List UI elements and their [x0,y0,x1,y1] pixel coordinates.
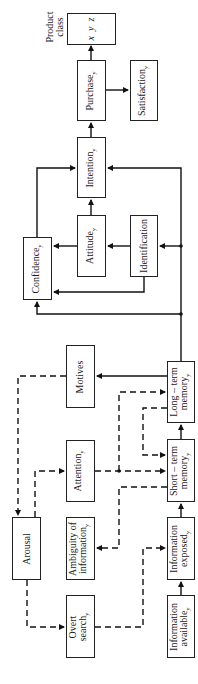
arousal-label: Arousal [21,533,32,565]
edge-arousal-to-attention [35,471,64,517]
exposed-label-line2: exposed [178,534,189,567]
available-sub: y [185,607,191,610]
attitude-label: Attitude [84,231,95,264]
stm-sub: y [185,452,191,455]
edge-arousal-to-overt-search [27,580,64,627]
attitude-sub: y [91,228,97,231]
purchase-label: Purchase [84,74,95,110]
ambiguity-sub: y [85,523,91,526]
satisfaction-box: Satisfactiony [130,60,158,121]
motives-box: Motives [66,345,95,408]
ambiguity-box: Ambiguity of informationy [66,517,95,580]
information-available-box: Information availabley [167,595,195,658]
long-term-memory-box: Long – term memoryy [167,361,195,423]
short-term-memory-box: Short – term memoryy [167,439,195,502]
intention-sub: y [91,148,97,151]
attention-label: Attention [73,454,84,492]
intention-box: Intentiony [77,137,106,198]
identification-box: Identification [130,215,158,277]
satisfaction-label: Satisfaction [136,68,147,115]
arousal-box: Arousal [12,517,41,580]
edge-identification-to-confidence [54,277,144,292]
product-class-label: Product class [45,10,65,44]
ambiguity-label-line2: information [78,526,89,573]
overt-search-box: Overt searchy [66,595,95,658]
ltm-sub: y [185,374,191,377]
product-class-box: x y z [67,13,116,45]
edge-confidence-to-intention [37,168,75,237]
edge-motives-to-arousal [18,376,66,515]
stm-label-line2: memory [178,455,189,488]
product-z: z [86,18,97,22]
edge-ltm-to-confidence [37,302,181,314]
edge-stm-to-ambiguity [97,487,167,548]
identification-label: Identification [138,219,149,273]
product-y: y [86,27,97,31]
edge-attention-to-ltm [119,392,165,471]
ltm-label-line2: memory [178,377,189,410]
product-x: x [86,36,97,40]
purchase-sub: y [91,71,97,74]
purchase-box: Purchasey [77,60,106,121]
overt-label-line2: search [78,615,89,641]
available-label-line2: available [178,610,189,646]
edge-ltm-to-stm [143,408,167,455]
edge-overt-search-to-exposed [95,548,165,627]
confidence-box: Confidencey [23,237,52,300]
product-class-label-line2: class [55,10,65,44]
information-exposed-box: Information exposedy [167,517,195,580]
attitude-box: Attitudey [77,215,106,277]
confidence-sub: y [37,244,43,247]
attention-sub: y [80,451,86,454]
confidence-label: Confidence [30,247,41,293]
motives-label: Motives [75,360,86,393]
intention-label: Intention [84,151,95,187]
attention-box: Attentiony [66,440,95,502]
exposed-sub: y [185,531,191,534]
product-class-items: x y z [87,18,97,41]
overt-sub: y [85,612,91,615]
satisfaction-sub: y [143,65,149,68]
